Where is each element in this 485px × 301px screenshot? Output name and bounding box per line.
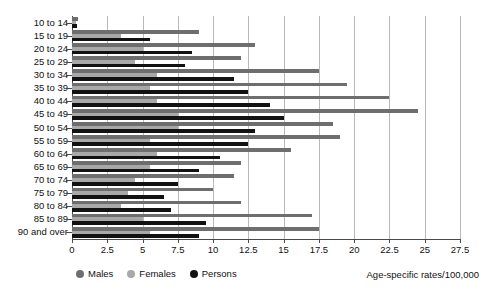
x-axis-tick-label: 10 (208, 244, 219, 255)
y-axis-tick (66, 232, 72, 233)
y-axis-tick (66, 101, 72, 102)
bar-group (72, 213, 460, 226)
x-axis-tick-label: 5 (140, 244, 145, 255)
y-axis-label: 60 to 64 (2, 149, 68, 159)
legend-label: Persons (202, 268, 237, 279)
bar-persons (72, 64, 185, 68)
x-axis-tick (107, 239, 108, 243)
y-axis-label: 15 to 19 (2, 31, 68, 41)
bar-persons (72, 169, 199, 173)
x-axis-tick (389, 239, 390, 243)
y-axis-tick (66, 141, 72, 142)
bar-group (72, 160, 460, 173)
x-axis-tick-label: 0 (69, 244, 74, 255)
bar-group (72, 226, 460, 239)
y-axis-tick (66, 154, 72, 155)
x-axis-tick (213, 239, 214, 243)
x-axis-tick-label: 7.5 (171, 244, 184, 255)
legend-item-persons[interactable]: Persons (190, 268, 237, 279)
x-axis-tick-label: 2.5 (101, 244, 114, 255)
bar-persons (72, 24, 77, 28)
y-axis-tick (66, 49, 72, 50)
legend-swatch-icon (127, 270, 135, 278)
y-axis-tick (66, 206, 72, 207)
legend-label: Males (88, 268, 113, 279)
y-axis-tick (66, 114, 72, 115)
x-axis-tick (319, 239, 320, 243)
bar-persons (72, 221, 206, 225)
y-axis-tick (66, 23, 72, 24)
y-axis-tick (66, 36, 72, 37)
y-axis-tick (66, 75, 72, 76)
y-axis-label: 70 to 74 (2, 175, 68, 185)
bar-group (72, 82, 460, 95)
y-axis-label: 85 to 89 (2, 214, 68, 224)
bar-group (72, 200, 460, 213)
legend-label: Females (139, 268, 175, 279)
y-axis-label: 50 to 54 (2, 123, 68, 133)
y-axis-tick (66, 167, 72, 168)
bar-persons (72, 90, 248, 94)
bar-group (72, 121, 460, 134)
x-axis-tick (248, 239, 249, 243)
bar-persons (72, 195, 164, 199)
legend-swatch-icon (76, 270, 84, 278)
bar-chart: 10 to 1415 to 1920 to 2425 to 2930 to 34… (0, 0, 485, 301)
y-axis-label: 90 and over (2, 227, 68, 237)
x-axis-tick-label: 15 (278, 244, 289, 255)
bar-persons (72, 38, 150, 42)
y-axis-label: 20 to 24 (2, 44, 68, 54)
y-axis-tick (66, 219, 72, 220)
y-axis-label: 35 to 39 (2, 83, 68, 93)
y-axis-label: 55 to 59 (2, 136, 68, 146)
bar-group (72, 95, 460, 108)
y-axis-label: 45 to 49 (2, 109, 68, 119)
bar-persons (72, 156, 220, 160)
bar-persons (72, 142, 248, 146)
x-axis-tick (460, 239, 461, 243)
legend-item-females[interactable]: Females (127, 268, 175, 279)
bar-persons (72, 129, 255, 133)
y-axis-label: 25 to 29 (2, 57, 68, 67)
plot-area (72, 16, 460, 239)
bar-persons (72, 77, 234, 81)
y-axis-label: 65 to 69 (2, 162, 68, 172)
x-axis-tick (143, 239, 144, 243)
y-axis-label: 40 to 44 (2, 96, 68, 106)
bar-group (72, 147, 460, 160)
x-axis-tick (425, 239, 426, 243)
y-axis-label: 30 to 34 (2, 70, 68, 80)
bar-group (72, 173, 460, 186)
legend-swatch-icon (190, 270, 198, 278)
x-axis-title: Age-specific rates/100,000 (367, 269, 479, 280)
x-axis-tick-label: 17.5 (310, 244, 329, 255)
legend-item-males[interactable]: Males (76, 268, 113, 279)
chart-legend: MalesFemalesPersons (76, 268, 237, 279)
bar-persons (72, 51, 192, 55)
y-axis-tick (66, 88, 72, 89)
bar-group (72, 108, 460, 121)
x-axis-tick (72, 239, 73, 243)
bar-group (72, 187, 460, 200)
bar-persons (72, 103, 270, 107)
bar-group (72, 42, 460, 55)
y-axis-tick (66, 180, 72, 181)
bar-persons (72, 116, 284, 120)
bar-persons (72, 208, 171, 212)
bar-persons (72, 234, 199, 238)
y-axis-label: 10 to 14 (2, 18, 68, 28)
bar-group (72, 16, 460, 29)
x-axis-tick (354, 239, 355, 243)
gridline-27.5 (460, 16, 461, 239)
y-axis-label: 75 to 79 (2, 188, 68, 198)
x-axis-tick-label: 27.5 (451, 244, 470, 255)
bar-group (72, 134, 460, 147)
y-axis-labels: 10 to 1415 to 1920 to 2425 to 2930 to 34… (0, 16, 68, 239)
y-axis-label: 80 to 84 (2, 201, 68, 211)
bar-persons (72, 182, 178, 186)
x-axis-tick-label: 22.5 (380, 244, 399, 255)
y-axis-tick (66, 62, 72, 63)
x-axis-tick (284, 239, 285, 243)
x-axis-tick-label: 20 (349, 244, 360, 255)
bar-group (72, 29, 460, 42)
